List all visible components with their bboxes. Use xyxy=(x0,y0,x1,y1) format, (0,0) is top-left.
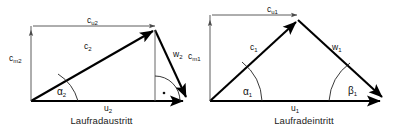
label-cm1: cm1 xyxy=(188,51,201,62)
label-c2: c2 xyxy=(84,41,92,52)
label-alpha1: α1 xyxy=(243,86,253,98)
vector-c2 xyxy=(31,31,153,101)
velocity-triangle-figure: cu2 cm2 c2 w2 u2 α2 cu1 xyxy=(0,0,405,138)
label-beta1: β1 xyxy=(348,85,358,97)
label-u1: u1 xyxy=(291,103,300,114)
vector-w1 xyxy=(298,20,382,97)
label-u2: u2 xyxy=(104,103,113,114)
label-alpha2: α2 xyxy=(57,86,67,98)
vector-c1 xyxy=(210,22,296,101)
inlet-velocity-triangle: cu1 cm1 c1 w1 u1 α1 β1 xyxy=(188,4,382,114)
caption-laufradeintritt: Laufradeintritt xyxy=(203,115,405,126)
vector-w2 xyxy=(155,30,186,97)
right-angle-arc xyxy=(155,76,180,101)
outlet-velocity-triangle: cu2 cm2 c2 w2 u2 α2 xyxy=(9,15,186,114)
angle-arc-beta1 xyxy=(329,63,350,101)
label-w1: w1 xyxy=(331,42,342,53)
right-angle-dot xyxy=(163,92,166,95)
label-cm2: cm2 xyxy=(9,53,22,64)
label-w2: w2 xyxy=(172,49,183,60)
caption-laufradaustritt: Laufradaustritt xyxy=(0,115,203,126)
label-cu2: cu2 xyxy=(87,15,99,26)
label-c1: c1 xyxy=(250,42,258,53)
label-cu1: cu1 xyxy=(267,4,279,15)
